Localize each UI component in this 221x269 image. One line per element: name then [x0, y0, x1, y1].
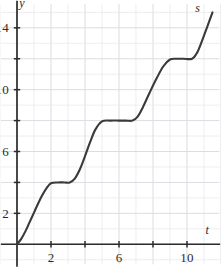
- y-axis-name-label: y: [19, 0, 24, 9]
- y-axis-tick-label: 10: [0, 83, 9, 96]
- y-axis-tick-label: 2: [0, 207, 9, 220]
- y-axis-tick-label: 14: [0, 21, 9, 34]
- x-axis-name-label: t: [205, 224, 208, 236]
- chart-canvas: [0, 0, 221, 269]
- x-axis-tick-label: 2: [37, 251, 65, 264]
- data-curve-layer: [17, 12, 213, 244]
- chart-figure: 2610142610syt: [0, 0, 221, 269]
- ticks-layer: [14, 28, 187, 248]
- x-axis-tick-label: 10: [173, 251, 201, 264]
- data-curve-s: [17, 12, 213, 244]
- curve-series-label-s: s: [195, 2, 200, 14]
- grid-layer: [0, 4, 221, 265]
- x-axis-tick-label: 6: [105, 251, 133, 264]
- y-axis-tick-label: 6: [0, 145, 9, 158]
